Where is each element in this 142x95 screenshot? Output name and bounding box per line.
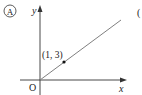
option-label-a: A [4, 5, 16, 17]
option-letter: A [7, 7, 14, 17]
y-axis-arrow-icon [38, 5, 43, 12]
y-axis-label: y [31, 5, 37, 16]
graph-figure: A y x O (1, 3) ( [0, 0, 142, 95]
point-marker [62, 60, 65, 63]
x-axis-label: x [118, 83, 124, 94]
next-option-partial: ( [137, 7, 141, 19]
x-axis-arrow-icon [120, 78, 127, 83]
origin-label: O [29, 82, 36, 93]
point-label: (1, 3) [42, 50, 63, 61]
